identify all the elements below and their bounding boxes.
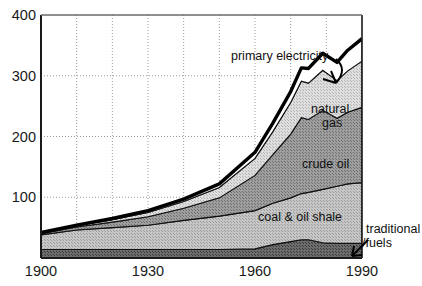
chart-screenshot: 100200300400 1900193019601990 primary el… [0,0,422,286]
y-tick-label: 300 [12,68,36,84]
annotation-label-primary-electricity: primary electricity [231,49,329,63]
y-axis-tick-labels: 100200300400 [12,7,36,205]
annotation-label-traditional-fuels-line2: /fuels [362,236,392,250]
annotation-label-traditional-fuels-line1: traditional [366,222,420,236]
annotation-label-natural-gas-line1: natural [311,102,349,116]
y-tick-label: 400 [12,7,36,23]
y-tick-label: 200 [12,129,36,145]
y-tick-label: 100 [12,189,36,205]
annotation-label-coal-oil-shale: coal & oil shale [258,210,342,224]
x-tick-label: 1960 [239,263,271,279]
annotation-label-crude-oil: crude oil [302,157,349,171]
x-tick-label: 1990 [346,263,378,279]
annotation-label-natural-gas-line2: gas [322,116,342,130]
energy-stacked-area-chart: 100200300400 1900193019601990 primary el… [0,0,422,286]
x-tick-label: 1900 [25,263,57,279]
x-axis-tick-labels: 1900193019601990 [25,263,378,279]
stacked-bands [41,39,362,258]
x-tick-label: 1930 [132,263,164,279]
